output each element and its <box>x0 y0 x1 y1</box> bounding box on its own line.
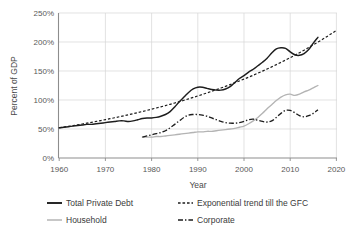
x-axis-title: Year <box>189 180 206 190</box>
line-chart: 250% 200% 150% 100% 50% 0% 1960 1970 198… <box>0 0 363 233</box>
y-tick-label-50: 50% <box>38 125 54 134</box>
y-tick-label-100: 100% <box>34 96 54 105</box>
x-tick-label-2020: 2020 <box>328 165 346 174</box>
y-axis-tick-labels: 250% 200% 150% 100% 50% 0% <box>34 9 54 163</box>
legend-label-household: Household <box>66 215 107 225</box>
legend-label-exponential-trend: Exponential trend till the GFC <box>197 198 308 208</box>
y-tick-label-150: 150% <box>34 67 54 76</box>
legend-label-corporate: Corporate <box>197 215 235 225</box>
gridlines <box>59 13 338 158</box>
x-tick-label-1960: 1960 <box>50 165 68 174</box>
x-tick-label-1990: 1990 <box>189 165 207 174</box>
series-path-corporate <box>142 110 318 137</box>
x-axis-tick-labels: 1960 1970 1980 1990 2000 2010 2020 <box>50 165 346 174</box>
x-tick-label-1970: 1970 <box>97 165 115 174</box>
legend: Total Private Debt Exponential trend til… <box>47 198 308 225</box>
x-tick-label-2010: 2010 <box>281 165 299 174</box>
x-tick-label-1980: 1980 <box>143 165 161 174</box>
x-tick-label-2000: 2000 <box>235 165 253 174</box>
y-tick-label-0: 0% <box>42 154 54 163</box>
legend-label-total-private-debt: Total Private Debt <box>66 198 134 208</box>
y-axis-title: Percent of GDP <box>9 56 19 116</box>
series-path-household <box>142 86 318 138</box>
y-tick-label-250: 250% <box>34 9 54 18</box>
chart-container: 250% 200% 150% 100% 50% 0% 1960 1970 198… <box>0 0 363 233</box>
y-tick-label-200: 200% <box>34 38 54 47</box>
